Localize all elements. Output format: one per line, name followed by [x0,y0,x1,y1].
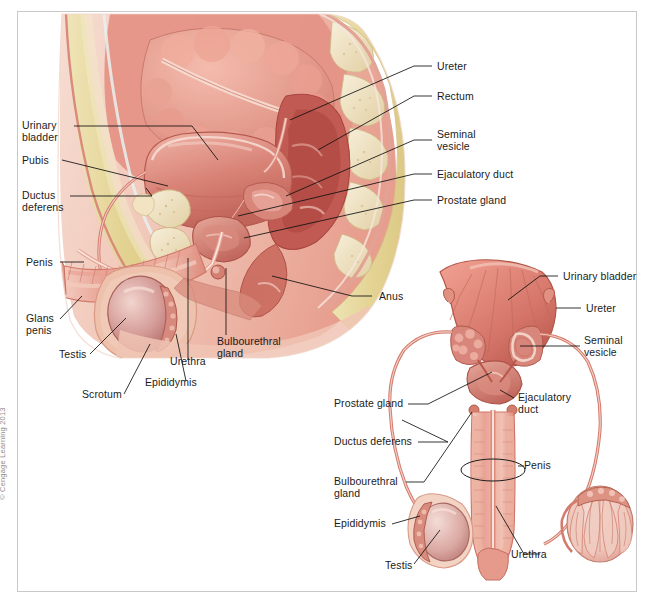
label-urethra-2: Urethra [511,549,547,561]
label-glans-penis: Glans penis [26,313,54,336]
label-urinary-bladder: Urinary bladder [22,120,58,143]
label-ductus-deferens: Ductus deferens [22,190,64,213]
anatomy-figure: Urinary bladder Pubis Ductus deferens Pe… [0,0,649,606]
label-testis: Testis [59,349,86,361]
penis-anterior-section [471,410,515,580]
label-prostate-gland: Prostate gland [437,195,506,207]
label-ductus-deferens-2: Ductus deferens [334,436,412,448]
label-anus: Anus [379,291,403,303]
label-bulbourethral-gland-2: Bulbourethral gland [334,476,398,499]
leader-bulbourethral-gland-2 [406,412,472,482]
label-testis-2: Testis [385,560,412,572]
label-epididymis-2: Epididymis [334,518,386,530]
anatomy-illustration [0,0,649,606]
label-seminal-vesicle: Seminal vesicle [437,129,476,152]
label-scrotum: Scrotum [82,389,122,401]
bulbourethral-highlight [213,267,220,274]
testis-anterior-left [408,494,474,568]
label-urethra: Urethra [170,356,206,368]
label-penis: Penis [26,257,53,269]
label-penis-2: Penis [524,460,551,472]
label-prostate-gland-2: Prostate gland [334,398,403,410]
label-ureter: Ureter [437,61,467,73]
testis-anterior-right-section [562,486,633,562]
label-ureter-2: Ureter [586,303,616,315]
label-epididymis: Epididymis [145,377,197,389]
label-rectum: Rectum [437,91,474,103]
copyright-notice: © Cengage Learning 2013 [0,390,7,500]
label-ejaculatory-duct-2: Ejaculatory duct [518,392,571,415]
label-seminal-vesicle-2: Seminal vesicle [584,335,623,358]
label-ejaculatory-duct: Ejaculatory duct [437,169,513,181]
label-pubis: Pubis [22,155,49,167]
label-urinary-bladder-2: Urinary bladder [563,271,636,283]
sagittal-view [44,6,419,369]
label-bulbourethral-gland: Bulbourethral gland [217,336,281,359]
